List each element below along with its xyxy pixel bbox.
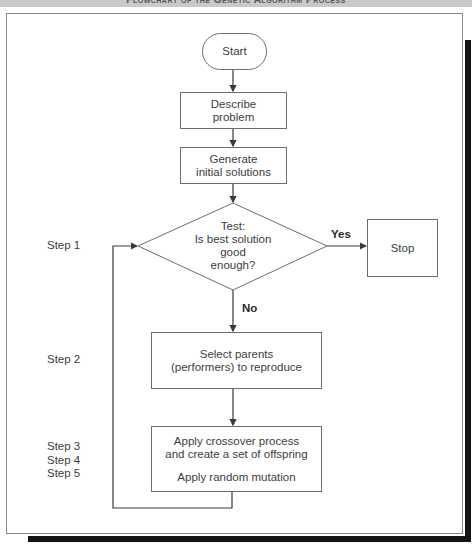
start-node: Start: [202, 33, 267, 70]
test-line3: good: [220, 246, 246, 259]
test-line1: Test:: [221, 220, 245, 233]
describe-line1: Describe: [211, 98, 256, 111]
crossover-line2: and create a set of offspring: [165, 448, 307, 461]
select-line2: (performers) to reproduce: [171, 361, 302, 374]
crossover-line1: Apply crossover process: [174, 435, 299, 448]
no-label: No: [242, 302, 257, 314]
test-line4: enough?: [211, 259, 256, 272]
test-line2: Is best solution: [195, 233, 272, 246]
yes-label: Yes: [331, 228, 351, 240]
test-decision-text: Test: Is best solution good enough?: [170, 218, 296, 274]
generate-line1: Generate: [210, 153, 258, 166]
crossover-line3: Apply random mutation: [177, 471, 295, 484]
step-1-label: Step 1: [47, 239, 80, 251]
step-4-label: Step 4: [47, 454, 80, 466]
step-2-label: Step 2: [47, 353, 80, 365]
describe-problem-node: Describe problem: [180, 92, 287, 129]
select-parents-node: Select parents (performers) to reproduce: [151, 332, 322, 389]
select-line1: Select parents: [200, 348, 274, 361]
start-label: Start: [222, 45, 246, 58]
step-3-label: Step 3: [47, 440, 80, 452]
stop-label: Stop: [391, 242, 415, 255]
generate-line2: initial solutions: [196, 166, 271, 179]
crossover-mutation-node: Apply crossover process and create a set…: [151, 426, 322, 492]
stop-node: Stop: [367, 219, 438, 277]
describe-line2: problem: [213, 111, 255, 124]
generate-solutions-node: Generate initial solutions: [180, 147, 287, 184]
step-5-label: Step 5: [47, 467, 80, 479]
